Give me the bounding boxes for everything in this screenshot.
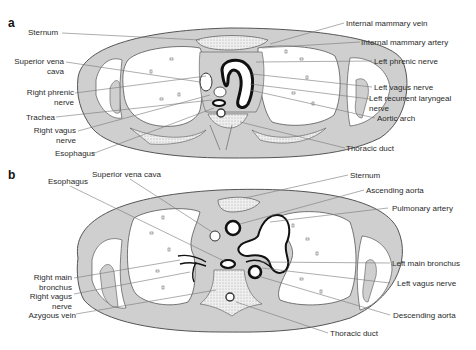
label-svc-a: Superior venacava [14, 57, 64, 76]
label-sternum-b: Sternum [350, 171, 380, 181]
right-lung-a [123, 47, 204, 127]
label-left-vagus-nerve-a: Left vagus nerve [374, 83, 433, 93]
label-aortic-arch-a: Aortic arch [377, 114, 415, 124]
label-right-vagus-nerve-a: Right vagusnerve [24, 126, 76, 145]
label-pulmonary-artery-b: Pulmonary artery [392, 204, 453, 214]
left-lung-a [258, 46, 340, 125]
panel-b-label: b [8, 168, 15, 182]
panel-a-label: a [8, 16, 15, 30]
label-esophagus-a: Esophagus [55, 149, 95, 159]
spinal-canal-a [217, 109, 225, 117]
label-descending-aorta-b: Descending aorta [393, 311, 456, 321]
label-internal-mammary-artery-a: Internal mammary artery [361, 38, 448, 48]
label-right-main-bronchus-b: Right mainbronchus [20, 273, 72, 292]
label-thoracic-duct-a: Thoracic duct [346, 144, 394, 154]
label-left-main-bronchus-b: Left main bronchus [392, 259, 460, 269]
label-trachea-a: Trachea [26, 113, 55, 123]
label-thoracic-duct-b: Thoracic duct [330, 329, 378, 339]
svc-b [210, 231, 220, 241]
trachea-a [213, 100, 225, 106]
esophagus-b [221, 260, 235, 268]
label-svc-b: Superior vena cava [92, 170, 161, 180]
label-left-vagus-nerve-b: Left vagus nerve [397, 279, 456, 289]
cross-section-b [77, 189, 402, 332]
right-lung-b [127, 209, 200, 305]
label-azygous-vein-b: Azygous vein [20, 311, 76, 321]
label-esophagus-b: Esophagus [48, 177, 88, 187]
label-left-phrenic-nerve-a: Left phrenic nerve [374, 57, 438, 67]
svc-a [200, 73, 212, 91]
label-right-vagus-nerve-b: Right vagusnerve [20, 292, 72, 311]
label-sternum-a: Sternum [28, 28, 58, 38]
label-right-phrenic-nerve-a: Right phrenicnerve [12, 88, 74, 107]
label-ascending-aorta-b: Ascending aorta [366, 186, 424, 196]
label-internal-mammary-vein-a: Internal mammary vein [346, 19, 427, 29]
label-left-recurrent-laryngeal-nerve-a: Left recurrent laryngealnerve [369, 94, 451, 113]
spinal-canal-b [226, 293, 234, 301]
cross-section-a [78, 28, 407, 158]
ascending-aorta-b [226, 221, 240, 235]
